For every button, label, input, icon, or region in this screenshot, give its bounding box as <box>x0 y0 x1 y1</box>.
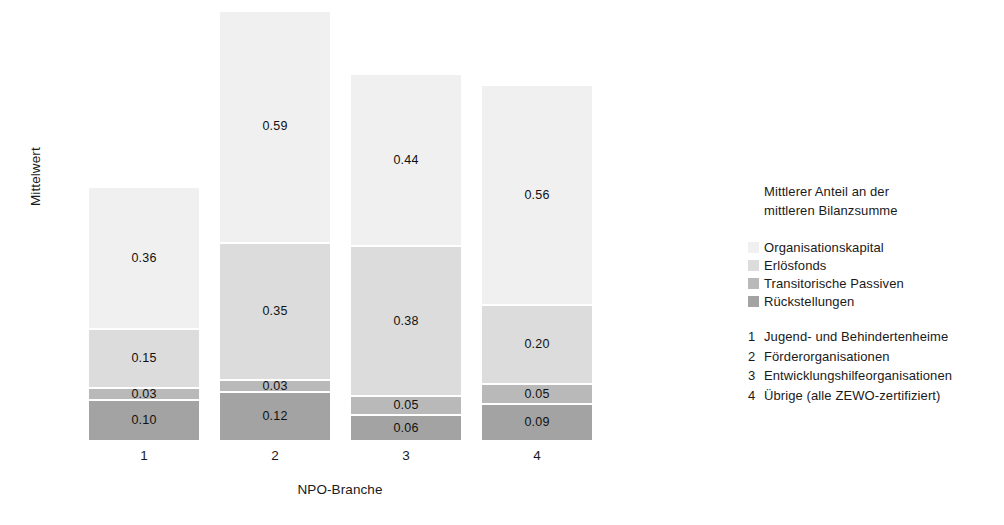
bar-segment-value-label: 0.05 <box>524 388 549 401</box>
bar-segment[interactable]: 0.10 <box>89 401 199 440</box>
bar-segment[interactable]: 0.35 <box>220 244 330 382</box>
stacked-bar[interactable]: 0.590.350.030.12 <box>220 12 330 440</box>
bar-segment[interactable]: 0.03 <box>220 381 330 393</box>
x-axis-title: NPO-Branche <box>0 482 680 497</box>
bar-segment-value-label: 0.12 <box>262 410 287 423</box>
bar-segment[interactable]: 0.05 <box>351 397 461 417</box>
bar-segment[interactable]: 0.06 <box>351 416 461 440</box>
legend-key-label: Transitorische Passiven <box>764 276 904 291</box>
bar-segment-value-label: 0.59 <box>262 120 287 133</box>
legend-key[interactable]: Rückstellungen <box>748 292 1004 310</box>
bar-segment[interactable]: 0.09 <box>482 405 592 440</box>
bar-segment-value-label: 0.06 <box>393 422 418 435</box>
stacked-bar[interactable]: 0.440.380.050.06 <box>351 75 461 440</box>
legend-category-label: Übrige (alle ZEWO-zertifiziert) <box>764 388 940 403</box>
legend-key-label: Rückstellungen <box>764 294 854 309</box>
legend-category-label: Förderorganisationen <box>764 349 890 364</box>
bar-segment-value-label: 0.44 <box>393 154 418 167</box>
legend-key[interactable]: Transitorische Passiven <box>748 274 1004 292</box>
legend-category-list: 1Jugend- und Behindertenheime2Förderorga… <box>748 329 1004 407</box>
bar-group: 0.560.200.050.09 <box>482 2 592 440</box>
legend-category-item: 3Entwicklungshilfeorganisationen <box>748 368 1004 388</box>
legend-category-number: 4 <box>748 388 764 403</box>
x-tick-label-2: 2 <box>220 448 330 463</box>
bar-segment[interactable]: 0.38 <box>351 247 461 396</box>
legend-title: Mittlerer Anteil an der mittleren Bilanz… <box>764 182 1004 220</box>
legend-key-label: Organisationskapital <box>764 240 884 255</box>
bar-group: 0.360.150.030.10 <box>89 2 199 440</box>
legend-category-item: 1Jugend- und Behindertenheime <box>748 329 1004 349</box>
legend-category-item: 2Förderorganisationen <box>748 349 1004 369</box>
legend-category-label: Entwicklungshilfeorganisationen <box>764 368 952 383</box>
bar-segment-value-label: 0.03 <box>262 380 287 393</box>
bar-segment[interactable]: 0.36 <box>89 188 199 329</box>
legend-category-item: 4Übrige (alle ZEWO-zertifiziert) <box>748 388 1004 408</box>
bar-segment-value-label: 0.56 <box>524 189 549 202</box>
bar-segment-value-label: 0.35 <box>262 305 287 318</box>
bar-segment-value-label: 0.20 <box>524 338 549 351</box>
legend-swatch-icon <box>748 278 759 289</box>
stacked-bar[interactable]: 0.360.150.030.10 <box>89 188 199 440</box>
x-tick-label-4: 4 <box>482 448 592 463</box>
legend-title-line-1: Mittlerer Anteil an der <box>764 182 1004 201</box>
legend-key-label: Erlösfonds <box>764 258 826 273</box>
bar-segment-value-label: 0.05 <box>393 399 418 412</box>
legend-key[interactable]: Erlösfonds <box>748 256 1004 274</box>
plot-area: 0.360.150.030.100.590.350.030.120.440.38… <box>0 0 680 440</box>
legend-key[interactable]: Organisationskapital <box>748 238 1004 256</box>
stacked-bar[interactable]: 0.560.200.050.09 <box>482 86 592 440</box>
legend-category-number: 2 <box>748 349 764 364</box>
x-tick-label-1: 1 <box>89 448 199 463</box>
legend: Mittlerer Anteil an der mittleren Bilanz… <box>748 182 1004 407</box>
bar-segment-value-label: 0.10 <box>131 414 156 427</box>
bar-segment-value-label: 0.03 <box>131 388 156 401</box>
bar-segment[interactable]: 0.05 <box>482 385 592 405</box>
legend-title-line-2: mittleren Bilanzsumme <box>764 201 1004 220</box>
bar-segment-value-label: 0.09 <box>524 416 549 429</box>
legend-swatch-icon <box>748 296 759 307</box>
bar-segment[interactable]: 0.12 <box>220 393 330 440</box>
legend-category-number: 3 <box>748 368 764 383</box>
x-tick-label-3: 3 <box>351 448 461 463</box>
bar-segment[interactable]: 0.20 <box>482 306 592 385</box>
bar-group: 0.590.350.030.12 <box>220 2 330 440</box>
bar-segment[interactable]: 0.03 <box>89 389 199 401</box>
bar-group: 0.440.380.050.06 <box>351 2 461 440</box>
bar-segment-value-label: 0.15 <box>131 352 156 365</box>
bar-segment-value-label: 0.38 <box>393 315 418 328</box>
legend-category-number: 1 <box>748 329 764 344</box>
legend-key-list: OrganisationskapitalErlösfondsTransitori… <box>748 238 1004 310</box>
legend-swatch-icon <box>748 260 759 271</box>
bar-segment-value-label: 0.36 <box>131 252 156 265</box>
legend-category-label: Jugend- und Behindertenheime <box>764 329 948 344</box>
bar-segment[interactable]: 0.15 <box>89 330 199 389</box>
bar-segment[interactable]: 0.56 <box>482 86 592 306</box>
chart-page: Mittelwert 0.360.150.030.100.590.350.030… <box>0 0 1004 525</box>
bar-segment[interactable]: 0.59 <box>220 12 330 244</box>
legend-swatch-icon <box>748 242 759 253</box>
bar-segment[interactable]: 0.44 <box>351 75 461 248</box>
